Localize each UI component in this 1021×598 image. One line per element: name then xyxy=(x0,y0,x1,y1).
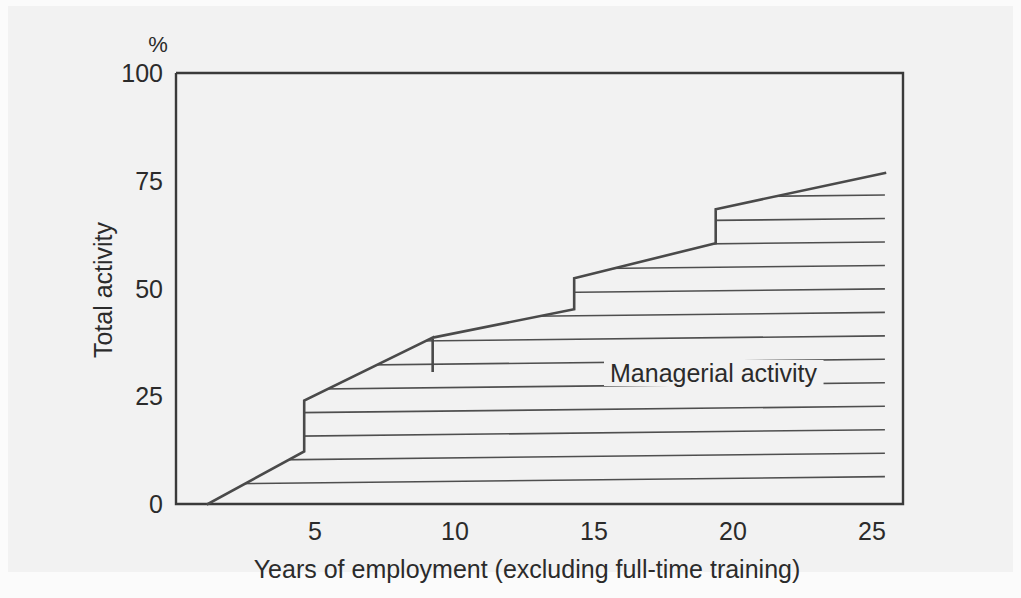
hatch-line xyxy=(176,289,885,297)
figure-container: % 100 75 50 25 0 5 10 15 20 25 Years of … xyxy=(0,0,1021,598)
hatch-line xyxy=(176,148,885,156)
y-axis-unit-label: % xyxy=(148,32,168,57)
y-tick-label-25: 25 xyxy=(135,382,163,410)
hatch-line xyxy=(176,406,885,414)
plot-frame xyxy=(176,73,903,504)
y-tick-label-75: 75 xyxy=(135,167,163,195)
x-tick-label-10: 10 xyxy=(441,517,469,545)
managerial-activity-annotation: Managerial activity xyxy=(610,359,818,387)
hatch-line xyxy=(176,453,885,461)
x-tick-label-20: 20 xyxy=(719,517,747,545)
y-axis-title: Total activity xyxy=(89,221,117,358)
hatch-line xyxy=(176,219,885,227)
hatch-line xyxy=(176,477,885,485)
y-tick-label-100: 100 xyxy=(121,59,163,87)
y-tick-label-0: 0 xyxy=(149,490,163,518)
x-tick-label-25: 25 xyxy=(858,517,886,545)
hatch-line xyxy=(176,242,885,250)
y-tick-label-50: 50 xyxy=(135,275,163,303)
managerial-activity-hatch xyxy=(176,125,885,485)
hatch-line xyxy=(176,172,885,180)
hatch-line xyxy=(176,265,885,273)
chart-svg: % 100 75 50 25 0 5 10 15 20 25 Years of … xyxy=(0,0,1021,598)
x-tick-label-15: 15 xyxy=(580,517,608,545)
x-axis-title: Years of employment (excluding full-time… xyxy=(254,555,801,583)
hatch-line xyxy=(176,430,885,438)
hatch-line xyxy=(176,336,885,344)
hatch-line xyxy=(176,125,885,133)
x-tick-label-5: 5 xyxy=(308,517,322,545)
